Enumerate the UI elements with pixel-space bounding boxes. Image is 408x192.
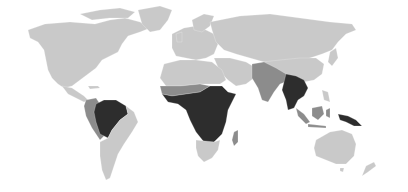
region-canada-islands [80, 8, 135, 20]
region-tasmania [340, 168, 344, 172]
region-sulawesi [326, 108, 330, 118]
region-java [308, 124, 326, 128]
region-north-africa [160, 60, 226, 86]
region-uk [176, 32, 182, 42]
world-map [0, 0, 408, 192]
region-north-america [28, 18, 150, 88]
region-new-zealand [362, 162, 376, 176]
region-philippines [322, 90, 330, 102]
region-sumatra-malaysia [296, 108, 310, 124]
region-caribbean [88, 86, 100, 89]
world-map-svg [0, 0, 408, 192]
region-madagascar [232, 130, 238, 146]
region-europe [172, 26, 218, 60]
region-southern-africa [196, 140, 220, 162]
region-borneo [312, 106, 324, 120]
region-new-guinea [338, 114, 362, 126]
region-central-america [62, 86, 88, 102]
region-australia [314, 130, 356, 164]
